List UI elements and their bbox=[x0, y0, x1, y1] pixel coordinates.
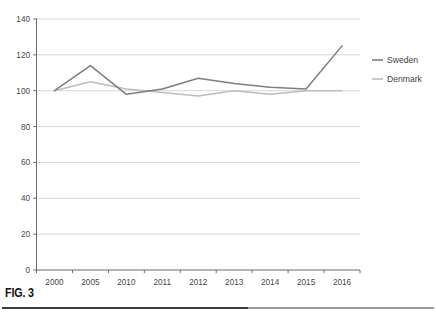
line-chart: 0204060801001201402000200520102011201220… bbox=[0, 0, 436, 288]
y-axis-tick-label: 20 bbox=[21, 230, 31, 239]
legend-label-denmark: Denmark bbox=[387, 74, 423, 84]
legend-label-sweden: Sweden bbox=[387, 55, 418, 65]
figure-container: 0204060801001201402000200520102011201220… bbox=[0, 0, 436, 312]
series-line-sweden bbox=[54, 46, 342, 94]
chart-legend: SwedenDenmark bbox=[372, 55, 423, 84]
y-axis-tick-label: 120 bbox=[16, 51, 30, 60]
gridlines bbox=[37, 19, 361, 234]
y-axis-ticks: 020406080100120140 bbox=[16, 15, 36, 275]
y-axis-tick-label: 60 bbox=[21, 158, 31, 167]
page-divider-dark bbox=[2, 307, 248, 309]
y-axis-tick-label: 100 bbox=[16, 87, 30, 96]
figure-label: FIG. 3 bbox=[5, 286, 34, 300]
y-axis-tick-label: 40 bbox=[21, 194, 31, 203]
chart-canvas: 0204060801001201402000200520102011201220… bbox=[0, 0, 436, 288]
figure-caption-area: FIG. 3 bbox=[0, 286, 436, 312]
y-axis-tick-label: 80 bbox=[21, 123, 31, 132]
x-axis-ticks: 200020052010201120122013201420152016 bbox=[37, 270, 361, 287]
y-axis-tick-label: 0 bbox=[25, 266, 30, 275]
y-axis-tick-label: 140 bbox=[16, 15, 30, 24]
